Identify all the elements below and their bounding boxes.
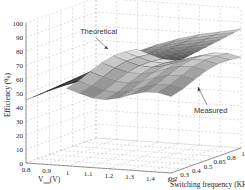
x-tick-label: 1.1 xyxy=(84,170,93,178)
x-tick-label: 1.2 xyxy=(104,172,113,180)
theoretical-annotation: Theoretical xyxy=(80,27,117,49)
x-tick-label: 1 xyxy=(66,169,70,177)
z-tick-label: 80 xyxy=(16,48,24,56)
measured-label: Measured xyxy=(194,106,227,115)
y-tick-label: 1 xyxy=(241,150,245,158)
measured-annotation: Measured xyxy=(194,87,227,115)
x-axis-label: Vout(V) xyxy=(38,175,61,185)
z-tick-label: 30 xyxy=(16,118,24,126)
z-tick-label: 100 xyxy=(13,20,24,28)
theoretical-label: Theoretical xyxy=(80,27,117,36)
z-tick-label: 40 xyxy=(16,104,24,112)
y-tick-label: 0.5 xyxy=(204,163,213,171)
x-tick-label: 1.4 xyxy=(146,175,155,183)
y-tick-label: 0.4 xyxy=(192,167,201,175)
arrowhead-icon xyxy=(104,46,108,49)
z-tick-label: 10 xyxy=(16,146,24,154)
z-axis-label: Efficiency (%) xyxy=(3,72,12,117)
z-tick-label: 50 xyxy=(16,90,24,98)
y-tick-label: 0.65 xyxy=(214,158,227,166)
x-tick-label: 1.3 xyxy=(125,173,134,181)
y-axis-label: Switching frequency (KHz) xyxy=(170,180,245,189)
y-tick-label: 0.3 xyxy=(180,171,189,179)
z-tick-label: 70 xyxy=(16,62,24,70)
arrowhead-icon xyxy=(198,87,201,92)
y-tick-label: 0.8 xyxy=(227,154,236,162)
z-tick-label: 90 xyxy=(16,34,24,42)
surfaces xyxy=(26,29,241,100)
z-tick-label: 20 xyxy=(16,132,24,140)
z-tick-label: 60 xyxy=(16,76,24,84)
efficiency-3d-surface-chart: 01020304050607080901000.80.911.11.21.31.… xyxy=(0,0,245,190)
x-tick-label: 0.8 xyxy=(22,166,31,174)
